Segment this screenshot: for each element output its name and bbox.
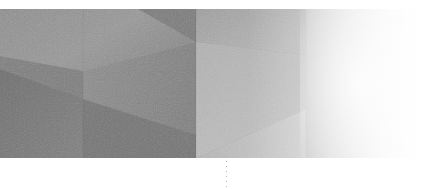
geometric-facets-svg	[0, 9, 438, 158]
abstract-geometric-image	[0, 9, 438, 158]
screenshot-canvas	[0, 0, 438, 189]
dotted-tick-marker	[226, 161, 227, 187]
facet-right-upper-plane	[306, 9, 438, 158]
